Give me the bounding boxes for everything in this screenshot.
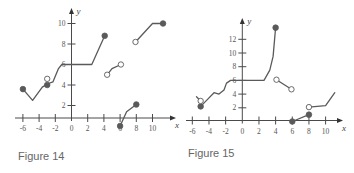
y-tick-label: 10 — [229, 49, 237, 58]
open-point-marker — [274, 77, 279, 82]
closed-point-marker — [306, 112, 312, 118]
curve-segment — [201, 28, 276, 107]
open-point-marker — [198, 98, 203, 103]
y-tick-label: 12 — [229, 35, 237, 44]
figure-15-plot: xy-6-4-2024681024681012 — [0, 0, 354, 145]
x-tick-label: 4 — [274, 127, 278, 136]
y-axis-label: y — [246, 16, 251, 26]
x-tick-label: -6 — [189, 127, 195, 136]
closed-point-marker — [273, 25, 279, 31]
endpoints — [198, 25, 312, 124]
x-tick-label: 6 — [290, 127, 294, 136]
open-point-marker — [306, 104, 311, 109]
open-point-marker — [289, 87, 294, 92]
figure-14-caption: Figure 14 — [18, 150, 64, 162]
y-axis-arrow-icon — [240, 18, 245, 24]
closed-point-marker — [198, 104, 204, 110]
figure-15-caption: Figure 15 — [188, 147, 234, 159]
x-tick-label: 10 — [322, 127, 330, 136]
y-tick-label: 2 — [233, 103, 237, 112]
x-tick-label: 0 — [240, 127, 244, 136]
x-tick-label: 2 — [257, 127, 261, 136]
y-tick-label: 8 — [233, 62, 237, 71]
x-tick-label: -2 — [223, 127, 229, 136]
curve-segment — [309, 93, 335, 107]
x-axis-label: x — [341, 123, 346, 133]
x-tick-label: 8 — [307, 127, 311, 136]
x-tick-label: -4 — [206, 127, 212, 136]
closed-point-marker — [289, 119, 295, 125]
curve-segments — [197, 28, 335, 122]
y-tick-label: 4 — [233, 90, 237, 99]
